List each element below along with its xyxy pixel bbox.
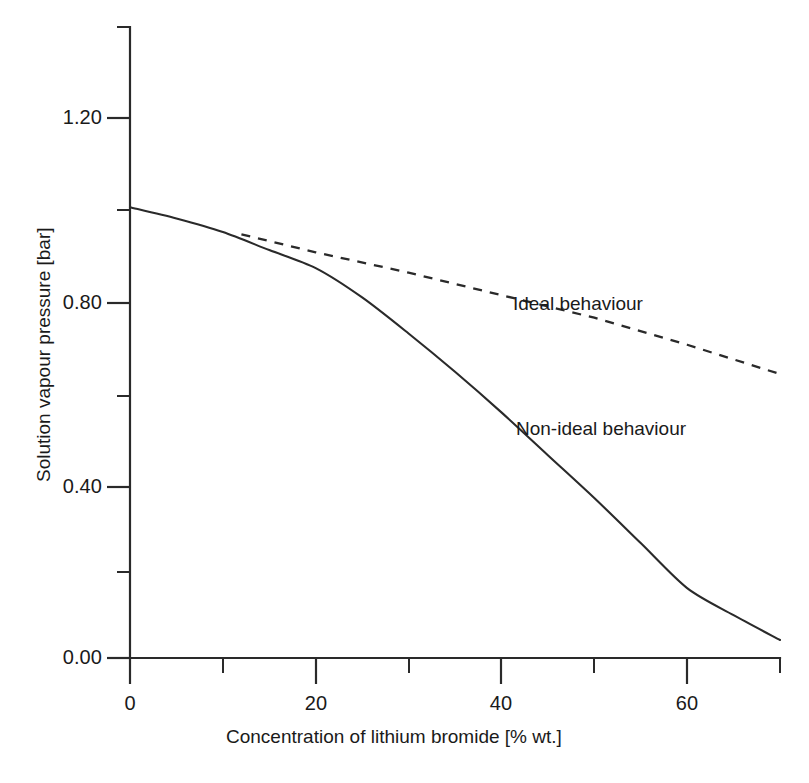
chart-figure: 1.20 0.80 0.40 0.00 0 20 40 60 Concentra…: [0, 0, 809, 783]
x-tick-label-20: 20: [286, 692, 346, 715]
annotation-ideal-behaviour: Ideal behaviour: [513, 293, 643, 315]
x-tick-label-40: 40: [471, 692, 531, 715]
y-major-ticks: [107, 118, 130, 658]
series-line-ideal-behaviour: [241, 234, 780, 374]
annotation-non-ideal-behaviour: Non-ideal behaviour: [516, 418, 686, 440]
x-axis-title: Concentration of lithium bromide [% wt.]: [226, 726, 562, 748]
plot-area: [0, 0, 809, 783]
y-minor-ticks: [117, 27, 130, 572]
y-tick-label-1-20: 1.20: [36, 106, 102, 129]
y-tick-label-0-00: 0.00: [36, 646, 102, 669]
x-tick-label-60: 60: [657, 692, 717, 715]
y-axis-title: Solution vapour pressure [bar]: [33, 227, 55, 482]
x-tick-label-0: 0: [100, 692, 160, 715]
